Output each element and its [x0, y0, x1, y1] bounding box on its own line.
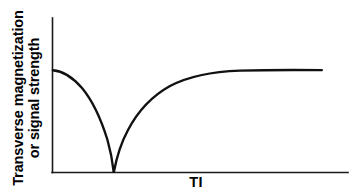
- chart-plot-area: [0, 0, 357, 195]
- chart-figure: Transverse magnetization or signal stren…: [0, 0, 357, 195]
- curve-recovery-branch: [114, 70, 322, 172]
- curve-decay-branch: [53, 70, 114, 172]
- x-axis-label: TI: [172, 174, 220, 190]
